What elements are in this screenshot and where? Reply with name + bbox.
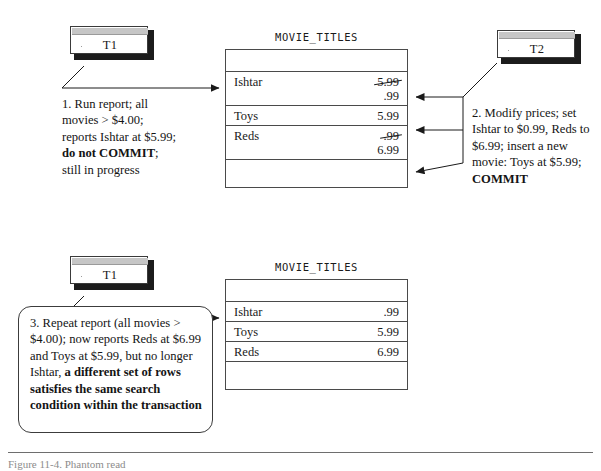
table-title: MOVIE_TITLES [225,31,408,43]
transaction-note-t1-top: T1 [70,26,154,60]
cell-movie-name: Ishtar [234,74,262,90]
step-3-text: 3. Repeat report (all movies > $4.00); n… [30,315,204,413]
text-run: 1. Run report; all movies > $4.00; repor… [62,97,176,144]
note-label: T2 [498,40,576,59]
cell-price: 6.99 [377,344,399,360]
cell-price: .99 [383,304,399,320]
note-label: T1 [71,266,149,285]
note-body: T1 [70,26,148,54]
note-titlebar [72,28,148,35]
note-titlebar [72,258,148,265]
figure-caption: Figure 11-4. Phantom read [8,458,408,471]
note-label: T1 [71,36,149,55]
cell-price-new: .99 [383,88,399,104]
caption-divider [8,452,593,453]
cell-movie-name: Ishtar [234,304,262,320]
table-title: MOVIE_TITLES [225,261,408,273]
text-run: 2. Modify prices; set Ishtar to $0.99, R… [472,106,590,169]
table-row: Ishtar 5.99 .99 [226,72,407,106]
t1-leader-top [62,66,219,88]
note-body: T2 [497,30,575,58]
table-row: Reds .99 6.99 [226,126,407,160]
emphasis-run: COMMIT [472,172,528,186]
table-row [226,50,407,72]
t2-leader [463,63,497,97]
cell-movie-name: Toys [234,324,258,340]
cell-movie-name: Toys [234,108,258,124]
cell-movie-name: Reds [234,128,259,144]
cell-price: 5.99 [377,108,399,124]
table-row: Ishtar .99 [226,302,407,322]
emphasis-run: do not COMMIT [62,146,155,160]
transaction-note-t1-bottom: T1 [70,256,154,290]
table-row [226,280,407,302]
cell-price-new: 6.99 [377,142,399,158]
cell-movie-name: Reds [234,344,259,360]
cell-price: 5.99 [377,324,399,340]
table-row: Reds 6.99 [226,342,407,362]
table-row: Toys 5.99 [226,322,407,342]
step-2-text: 2. Modify prices; set Ishtar to $0.99, R… [472,105,598,187]
table-row [226,362,407,389]
table-row: Toys 5.99 [226,106,407,126]
note-titlebar [499,32,575,39]
t2-row-arrows [416,97,463,172]
step-1-text: 1. Run report; all movies > $4.00; repor… [62,96,180,178]
table-grid: Ishtar .99 Toys 5.99 Reds 6.99 [225,279,408,390]
table-grid: Ishtar 5.99 .99 Toys 5.99 Reds .99 6.99 [225,49,408,188]
table-row [226,160,407,187]
transaction-note-t2: T2 [497,30,581,64]
note-body: T1 [70,256,148,284]
